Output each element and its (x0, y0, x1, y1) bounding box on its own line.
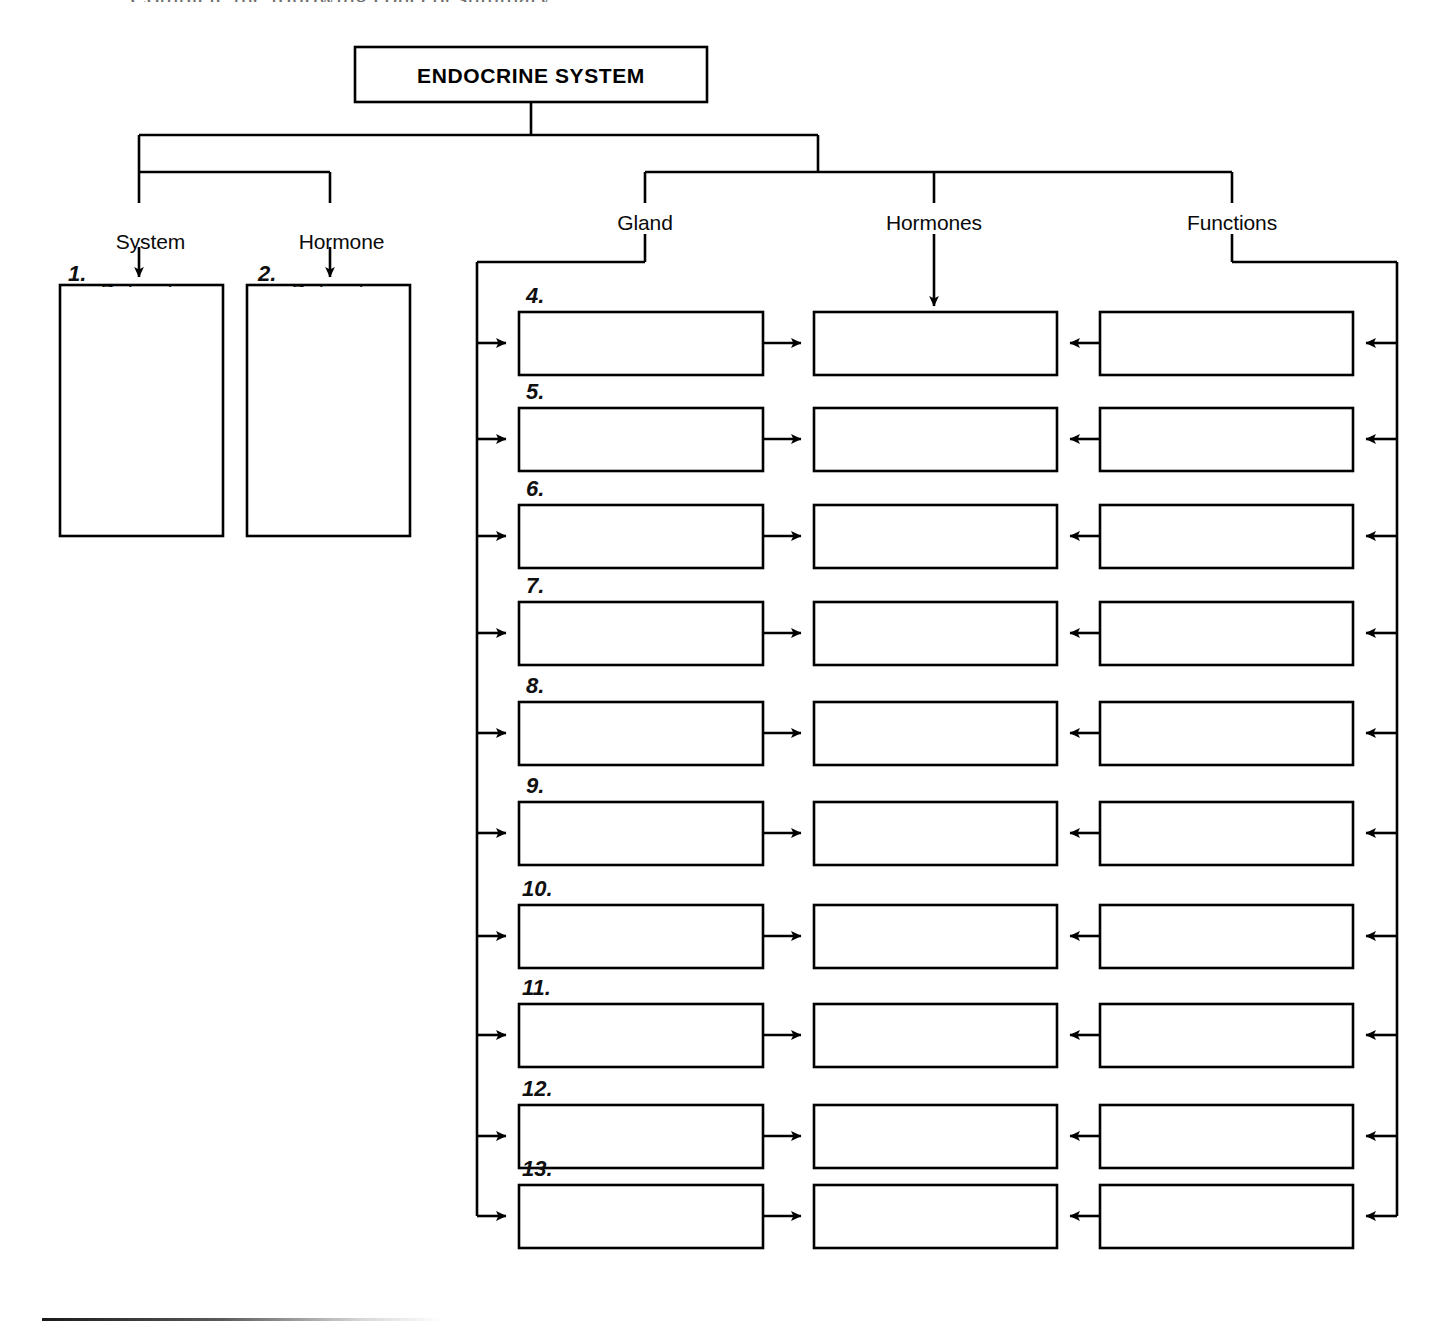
answer-box-hormone[interactable] (816, 1187, 1055, 1246)
answer-box-hormone[interactable] (816, 1006, 1055, 1065)
answer-box-function[interactable] (1102, 804, 1351, 863)
column-header-functions: Functions (1162, 210, 1302, 235)
answer-box-gland[interactable] (521, 907, 761, 966)
column-header-gland: Gland (575, 210, 715, 235)
answer-box-system-definition[interactable] (62, 287, 221, 534)
answer-box-hormone[interactable] (816, 704, 1055, 763)
branch-label-line1: Hormone (299, 230, 385, 253)
row-number: 10. (522, 878, 553, 900)
row-number: 13. (522, 1158, 553, 1180)
answer-box-function[interactable] (1102, 1006, 1351, 1065)
answer-box-gland[interactable] (521, 507, 761, 566)
blank-number-1: 1. (68, 263, 86, 285)
answer-box-hormone[interactable] (816, 907, 1055, 966)
answer-box-hormone-definition[interactable] (249, 287, 408, 534)
worksheet-page: Complete the following concept summary. (0, 0, 1449, 1329)
answer-box-gland[interactable] (521, 704, 761, 763)
blank-number-2: 2. (258, 263, 276, 285)
answer-box-gland[interactable] (521, 1107, 761, 1166)
row-number: 12. (522, 1078, 553, 1100)
row-number: 7. (526, 575, 544, 597)
column-header-hormones: Hormones (864, 210, 1004, 235)
page-title: ENDOCRINE SYSTEM (355, 64, 707, 88)
row-number: 9. (526, 775, 544, 797)
answer-box-hormone[interactable] (816, 604, 1055, 663)
row-number: 5. (526, 381, 544, 403)
answer-box-function[interactable] (1102, 507, 1351, 566)
answer-box-function[interactable] (1102, 314, 1351, 373)
answer-box-gland[interactable] (521, 410, 761, 469)
row-number: 4. (526, 285, 544, 307)
answer-box-function[interactable] (1102, 907, 1351, 966)
answer-box-function[interactable] (1102, 604, 1351, 663)
answer-box-hormone[interactable] (816, 314, 1055, 373)
answer-box-function[interactable] (1102, 1187, 1351, 1246)
answer-box-gland[interactable] (521, 1187, 761, 1246)
answer-box-function[interactable] (1102, 1107, 1351, 1166)
answer-box-hormone[interactable] (816, 1107, 1055, 1166)
answer-box-gland[interactable] (521, 604, 761, 663)
row-number: 8. (526, 675, 544, 697)
row-number: 11. (522, 977, 551, 999)
answer-box-gland[interactable] (521, 314, 761, 373)
branch-label-line1: System (116, 230, 185, 253)
answer-box-function[interactable] (1102, 704, 1351, 763)
answer-box-gland[interactable] (521, 1006, 761, 1065)
answer-box-gland[interactable] (521, 804, 761, 863)
answer-box-hormone[interactable] (816, 804, 1055, 863)
answer-box-hormone[interactable] (816, 410, 1055, 469)
row-number: 6. (526, 478, 544, 500)
footer-divider (42, 1318, 442, 1321)
answer-box-function[interactable] (1102, 410, 1351, 469)
answer-box-hormone[interactable] (816, 507, 1055, 566)
